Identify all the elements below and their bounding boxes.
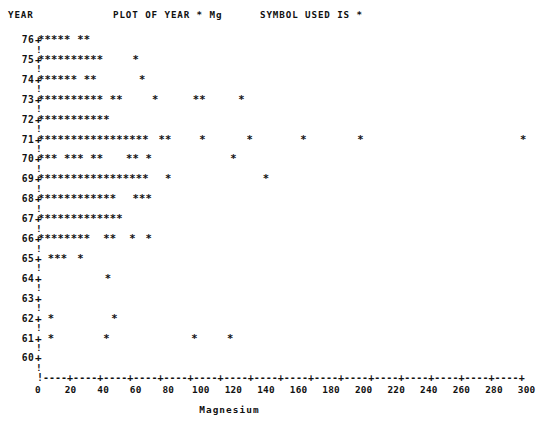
data-point-marker: *: [247, 134, 253, 145]
data-point-marker: *: [64, 213, 70, 224]
data-point-marker: *: [84, 94, 90, 105]
data-point-marker: *: [84, 34, 90, 45]
row-markers: +****: [0, 333, 520, 344]
data-point-marker: *: [110, 134, 116, 145]
data-point-marker: *: [58, 173, 64, 184]
data-point-marker: *: [90, 173, 96, 184]
data-point-marker: *: [111, 313, 117, 324]
data-point-marker: *: [48, 253, 54, 264]
row-markers: +****************: [0, 94, 520, 105]
data-point-marker: *: [146, 193, 152, 204]
row-markers: +************: [0, 153, 520, 164]
row-markers: +************************: [0, 134, 520, 145]
row-markers: +: [0, 352, 520, 363]
row-markers: +: [0, 293, 520, 304]
plot-row: 76+*******: [0, 34, 559, 52]
data-point-marker: *: [90, 193, 96, 204]
data-point-marker: *: [48, 313, 54, 324]
data-point-marker: *: [64, 34, 70, 45]
data-point-marker: *: [146, 153, 152, 164]
data-point-marker: *: [51, 114, 57, 125]
data-point-marker: *: [45, 193, 51, 204]
data-point-marker: *: [45, 94, 51, 105]
data-point-marker: *: [133, 193, 139, 204]
data-point-marker: *: [51, 193, 57, 204]
data-point-marker: *: [152, 94, 158, 105]
data-point-marker: *: [45, 74, 51, 85]
x-axis-tick-label: 280: [485, 384, 503, 395]
x-axis-tick-label: 80: [162, 384, 174, 395]
data-point-marker: *: [129, 173, 135, 184]
x-axis-tick-label: 220: [388, 384, 406, 395]
row-markers: +***************: [0, 193, 520, 204]
data-point-marker: *: [64, 193, 70, 204]
data-point-marker: *: [77, 233, 83, 244]
data-point-marker: *: [116, 173, 122, 184]
x-axis-tick-label: 260: [453, 384, 471, 395]
plot-title: PLOT OF YEAR * Mg: [113, 9, 222, 20]
data-point-marker: *: [90, 74, 96, 85]
data-point-marker: *: [64, 114, 70, 125]
data-point-marker: *: [51, 213, 57, 224]
data-point-marker: *: [51, 54, 57, 65]
data-point-marker: *: [51, 94, 57, 105]
plot-row: 69+*******************: [0, 173, 559, 191]
row-markers: +************: [0, 233, 520, 244]
data-point-marker: *: [159, 134, 165, 145]
plot-row: 71+************************: [0, 134, 559, 152]
data-point-marker: *: [139, 74, 145, 85]
data-point-marker: *: [133, 54, 139, 65]
plot-row: 75+***********: [0, 54, 559, 72]
data-point-marker: *: [71, 173, 77, 184]
x-axis-tick-label: 140: [257, 384, 275, 395]
data-point-marker: *: [520, 134, 526, 145]
plot-row: 67+*************: [0, 213, 559, 231]
x-axis-tick-label: 20: [65, 384, 77, 395]
y-axis-tick-mark: !: [36, 323, 42, 332]
data-point-marker: *: [71, 233, 77, 244]
data-point-marker: *: [123, 173, 129, 184]
data-point-marker: *: [90, 213, 96, 224]
data-point-marker: *: [64, 94, 70, 105]
data-point-marker: *: [51, 153, 57, 164]
data-point-marker: *: [51, 34, 57, 45]
row-markers: +*********: [0, 74, 520, 85]
data-point-marker: *: [84, 54, 90, 65]
row-markers: +*************: [0, 213, 520, 224]
data-point-marker: *: [84, 193, 90, 204]
x-axis-tick-label: 60: [130, 384, 142, 395]
row-markers: +*******: [0, 34, 520, 45]
data-point-marker: *: [58, 134, 64, 145]
data-point-marker: *: [103, 333, 109, 344]
x-axis-tick-label: 100: [192, 384, 210, 395]
data-point-marker: *: [110, 193, 116, 204]
data-point-marker: *: [90, 114, 96, 125]
data-point-marker: *: [77, 114, 83, 125]
data-point-marker: *: [77, 173, 83, 184]
data-point-marker: *: [116, 134, 122, 145]
data-point-marker: *: [84, 114, 90, 125]
data-point-marker: *: [103, 213, 109, 224]
data-point-marker: *: [136, 173, 142, 184]
x-axis-tick-label: 0: [35, 384, 41, 395]
data-point-marker: *: [77, 253, 83, 264]
data-point-marker: *: [238, 94, 244, 105]
data-point-marker: *: [165, 134, 171, 145]
data-point-marker: *: [103, 173, 109, 184]
data-point-marker: *: [71, 213, 77, 224]
plot-row: 63+: [0, 293, 559, 311]
plot-row: 61+****: [0, 333, 559, 351]
row-markers: +**: [0, 313, 520, 324]
y-axis-tick-mark: !: [36, 84, 42, 93]
plot-row: 65+****: [0, 253, 559, 271]
data-point-marker: *: [58, 233, 64, 244]
data-point-marker: *: [133, 153, 139, 164]
data-point-marker: *: [116, 94, 122, 105]
data-point-marker: *: [97, 114, 103, 125]
x-axis-tick-label: 300: [518, 384, 536, 395]
data-point-marker: *: [84, 74, 90, 85]
data-point-marker: *: [58, 74, 64, 85]
data-point-marker: *: [84, 134, 90, 145]
data-point-marker: *: [77, 213, 83, 224]
data-point-marker: *: [97, 54, 103, 65]
